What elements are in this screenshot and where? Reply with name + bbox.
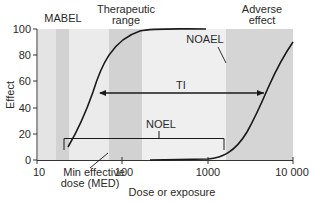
y-tick-60: 60: [19, 75, 31, 87]
x-tick-10: 10: [33, 166, 45, 178]
y-tick-0: 0: [25, 154, 31, 166]
noael-label: NOAEL: [186, 33, 223, 45]
noel-label: NOEL: [146, 118, 176, 130]
ti-label: TI: [176, 79, 186, 91]
adverse-label-2: effect: [249, 14, 276, 26]
mabel-band: [56, 29, 69, 160]
adverse-region: [226, 29, 293, 160]
y-tick-80: 80: [19, 49, 31, 61]
y-tick-100: 100: [13, 23, 31, 35]
x-tick-10000: 10 000: [275, 166, 309, 178]
x-tick-1000: 1000: [196, 166, 220, 178]
y-tick-20: 20: [19, 128, 31, 140]
mabel-label: MABEL: [44, 12, 81, 24]
plot-background: [38, 29, 293, 160]
y-tick-40: 40: [19, 102, 31, 114]
dose-response-chart: 100 80 60 40 20 0 10 100 1000 10 000 Dos…: [0, 0, 311, 203]
y-axis-label: Effect: [4, 81, 16, 109]
med-label-2: dose (MED): [61, 177, 120, 189]
x-axis-label: Dose or exposure: [129, 186, 216, 198]
therapeutic-label-2: range: [112, 14, 140, 26]
